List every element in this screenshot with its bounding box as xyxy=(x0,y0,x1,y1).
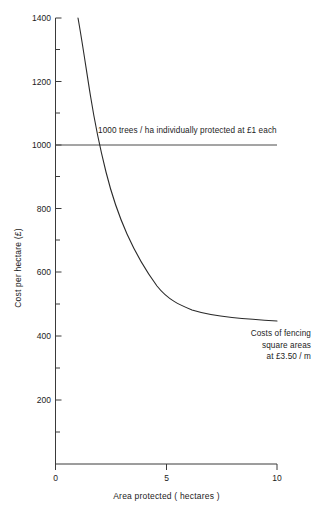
y-tick-label-800: 800 xyxy=(37,204,51,214)
y-tick-label-1000: 1000 xyxy=(32,140,51,150)
trees-annotation-label: 1000 trees / ha individually protected a… xyxy=(98,126,277,135)
x-axis-title: Area protected ( hectares ) xyxy=(113,491,220,501)
fencing-annotation-line-1: Costs of fencing xyxy=(251,329,312,338)
chart-figure: 1400 1200 1000 800 600 400 200 0 5 10 Ar… xyxy=(0,0,318,505)
fencing-annotation-line-3: at £3.50 / m xyxy=(267,352,312,361)
series-fencing-cost-curve xyxy=(78,18,277,321)
fencing-annotation-line-2: square areas xyxy=(262,341,311,350)
y-tick-label-600: 600 xyxy=(37,267,51,277)
y-tick-label-1200: 1200 xyxy=(32,77,51,87)
y-tick-label-400: 400 xyxy=(37,331,51,341)
y-axis-title: Cost per hectare (£) xyxy=(13,228,23,308)
y-tick-label-200: 200 xyxy=(37,395,51,405)
x-tick-label-0: 0 xyxy=(53,473,58,483)
chart-canvas: 1400 1200 1000 800 600 400 200 0 5 10 Ar… xyxy=(0,0,318,505)
x-tick-label-10: 10 xyxy=(272,473,282,483)
y-axis xyxy=(56,18,62,464)
x-axis xyxy=(56,464,278,470)
fencing-annotation-label: Costs of fencing square areas at £3.50 /… xyxy=(251,329,312,361)
y-tick-label-1400: 1400 xyxy=(32,13,51,23)
x-tick-label-5: 5 xyxy=(164,473,169,483)
series-group xyxy=(56,18,278,321)
